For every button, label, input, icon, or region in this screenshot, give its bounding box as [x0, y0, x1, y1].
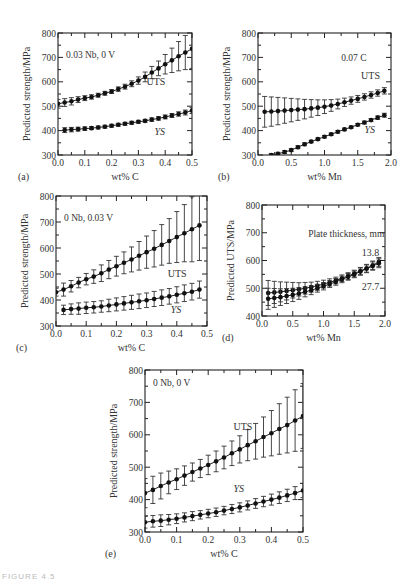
- series-label: YS: [154, 126, 165, 137]
- data-point: [61, 287, 66, 292]
- y-tick-label: 700: [242, 53, 257, 63]
- data-point: [170, 58, 175, 63]
- data-point: [159, 295, 164, 300]
- data-point: [269, 153, 274, 158]
- data-point: [152, 246, 157, 251]
- x-tick-label: 0.3: [141, 329, 153, 339]
- data-point: [230, 507, 235, 512]
- data-point: [62, 128, 67, 133]
- x-tick-label: 0.1: [79, 158, 91, 168]
- y-tick-label: 800: [242, 29, 257, 39]
- y-axis-label: Predicted strength/MPa: [19, 213, 30, 308]
- data-point: [297, 291, 302, 296]
- data-point: [69, 307, 74, 312]
- data-point: [190, 470, 195, 475]
- data-point: [103, 124, 108, 129]
- data-point: [349, 125, 354, 130]
- y-tick-label: 800: [42, 29, 57, 39]
- data-point: [261, 499, 266, 504]
- data-point: [336, 130, 341, 135]
- chart-panel-a: 0.00.10.20.30.40.5300400500600700800wt% …: [0, 0, 210, 190]
- data-point: [355, 97, 360, 102]
- data-point: [84, 306, 89, 311]
- data-point: [76, 97, 81, 102]
- y-tick-label: 600: [40, 244, 55, 254]
- data-point: [206, 511, 211, 516]
- data-point: [301, 488, 306, 493]
- y-tick-label: 700: [246, 228, 261, 238]
- data-point: [342, 127, 347, 132]
- data-point: [198, 466, 203, 471]
- x-tick-label: 0.5: [297, 535, 309, 545]
- y-tick-label: 600: [246, 256, 261, 266]
- data-point: [309, 106, 314, 111]
- data-point: [182, 231, 187, 236]
- data-point: [109, 123, 114, 128]
- data-point: [182, 291, 187, 296]
- y-tick-label: 500: [40, 270, 55, 280]
- data-point: [375, 115, 380, 120]
- data-point: [76, 306, 81, 311]
- data-point: [276, 109, 281, 114]
- data-point: [167, 294, 172, 299]
- data-point: [129, 257, 134, 262]
- chart-panel-d: 0.00.51.01.52.0400500600700800wt% MnPred…: [215, 190, 415, 360]
- x-tick-label: 0.5: [285, 158, 297, 168]
- chart-d: 0.00.51.01.52.0400500600700800wt% MnPred…: [215, 190, 415, 360]
- y-axis-label: Predicted UTS/MPa: [225, 220, 236, 301]
- panel-annotation: 0.07 C: [341, 53, 366, 63]
- y-tick-label: 700: [42, 53, 57, 63]
- data-point: [284, 294, 289, 299]
- x-tick-label: 0.4: [159, 158, 171, 168]
- data-point: [123, 121, 128, 126]
- data-point: [245, 503, 250, 508]
- data-point: [143, 119, 148, 124]
- data-point: [69, 99, 74, 104]
- x-tick-label: 0.3: [132, 158, 144, 168]
- chart-e: 0.00.10.20.30.40.5300400500600700800wt% …: [90, 360, 330, 565]
- y-tick-label: 800: [40, 192, 55, 202]
- y-tick-label: 700: [40, 218, 55, 228]
- series-label: YS: [171, 304, 182, 315]
- panel-label: (c): [16, 342, 27, 354]
- data-point: [238, 447, 243, 452]
- y-tick-label: 500: [242, 102, 257, 112]
- data-point: [136, 78, 141, 83]
- x-axis-label: wt% Mn: [306, 332, 341, 343]
- data-point: [190, 47, 195, 52]
- x-axis-label: wt% C: [210, 548, 238, 559]
- data-point: [222, 508, 227, 513]
- chart-panel-e: 0.00.10.20.30.40.5300400500600700800wt% …: [90, 360, 330, 565]
- y-tick-label: 300: [242, 151, 257, 161]
- data-point: [302, 142, 307, 147]
- data-point: [197, 223, 202, 228]
- data-point: [54, 290, 59, 295]
- data-point: [315, 286, 320, 291]
- data-point: [175, 293, 180, 298]
- series-label: UTS: [168, 268, 187, 279]
- data-point: [159, 243, 164, 248]
- data-point: [163, 62, 168, 67]
- data-point: [322, 134, 327, 139]
- data-point: [107, 303, 112, 308]
- data-point: [346, 275, 351, 280]
- data-point: [358, 269, 363, 274]
- data-point: [355, 122, 360, 127]
- data-point: [170, 113, 175, 118]
- data-point: [364, 267, 369, 272]
- y-tick-label: 800: [129, 366, 144, 376]
- y-tick-label: 800: [246, 201, 261, 211]
- data-point: [277, 427, 282, 432]
- data-point: [114, 264, 119, 269]
- y-tick-label: 600: [129, 430, 144, 440]
- data-point: [362, 95, 367, 100]
- data-point: [151, 519, 156, 524]
- data-point: [272, 296, 277, 301]
- x-tick-label: 0.3: [234, 535, 246, 545]
- data-point: [206, 463, 211, 468]
- data-point: [222, 455, 227, 460]
- data-point: [150, 70, 155, 75]
- data-point: [285, 423, 290, 428]
- data-point: [329, 103, 334, 108]
- data-point: [182, 473, 187, 478]
